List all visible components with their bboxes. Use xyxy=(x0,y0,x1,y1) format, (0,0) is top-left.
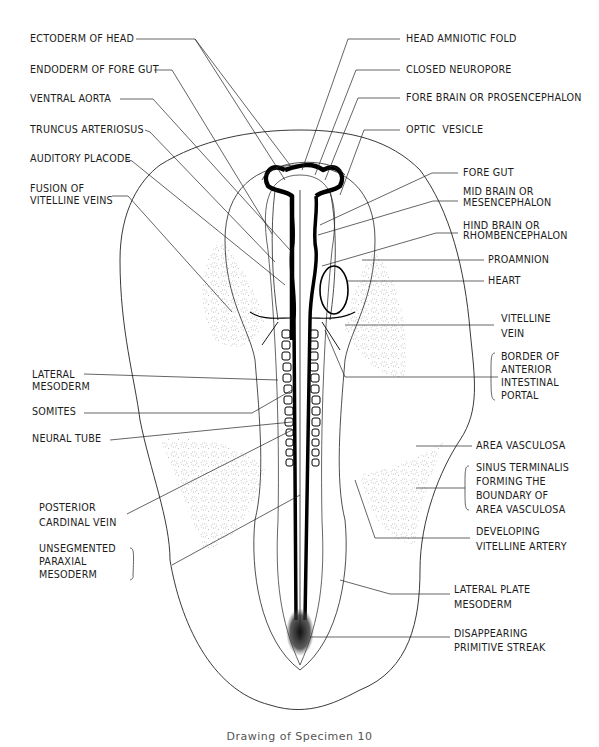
label-hind-brain: HIND BRAIN OR RHOMBENCEPHALON xyxy=(463,221,568,241)
label-disappearing-primitive-streak: DISAPPEARING PRIMITIVE STREAK xyxy=(454,627,545,655)
lateral-fold-right xyxy=(330,190,335,320)
label-developing-vitelline-artery: DEVELOPING VITELLINE ARTERY xyxy=(476,524,567,554)
label-mid-brain: MID BRAIN OR MESENCEPHALON xyxy=(463,186,551,208)
area-vasculosa-lower-left xyxy=(160,439,265,550)
primitive-streak xyxy=(286,608,314,656)
area-vasculosa-upper-right xyxy=(345,250,406,377)
label-neural-tube: NEURAL TUBE xyxy=(32,433,101,445)
somites xyxy=(282,330,320,466)
label-proamnion: PROAMNION xyxy=(488,254,549,266)
label-fore-brain: FORE BRAIN OR PROSENCEPHALON xyxy=(406,92,582,104)
label-ectoderm-of-head: ECTODERM OF HEAD xyxy=(30,33,134,45)
label-lateral-plate-mesoderm: LATERAL PLATE MESODERM xyxy=(454,582,530,612)
label-auditory-placode: AUDITORY PLACODE xyxy=(30,153,131,165)
label-endoderm-of-fore-gut: ENDODERM OF FORE GUT xyxy=(30,64,159,76)
label-ventral-aorta: VENTRAL AORTA xyxy=(30,93,111,105)
label-posterior-cardinal-vein: POSTERIOR CARDINAL VEIN xyxy=(39,500,117,530)
lateral-fold-left xyxy=(272,190,278,320)
neural-tube-right xyxy=(305,196,316,620)
embryo-diagram: ECTODERM OF HEAD ENDODERM OF FORE GUT VE… xyxy=(0,0,599,747)
label-sinus-terminalis: SINUS TERMINALIS FORMING THE BOUNDARY OF… xyxy=(476,461,569,517)
label-closed-neuropore: CLOSED NEUROPORE xyxy=(406,64,512,76)
label-border-anterior-intestinal-portal: BORDER OF ANTERIOR INTESTINAL PORTAL xyxy=(501,350,560,402)
label-area-vasculosa: AREA VASCULOSA xyxy=(476,440,565,452)
label-heart: HEART xyxy=(488,275,521,287)
label-vitelline-vein: VITELLINE VEIN xyxy=(501,311,551,341)
figure-caption: Drawing of Specimen 10 xyxy=(0,730,599,743)
area-vasculosa-upper-left xyxy=(202,240,265,347)
label-fore-gut: FORE GUT xyxy=(463,167,514,179)
label-somites: SOMITES xyxy=(32,406,76,418)
heart-shape xyxy=(320,266,348,314)
label-unsegmented-paraxial-mesoderm: UNSEGMENTED PARAXIAL MESODERM xyxy=(39,542,116,581)
label-lateral-mesoderm: LATERAL MESODERM xyxy=(32,369,90,393)
area-vasculosa-lower-right xyxy=(360,440,445,545)
label-optic-vesicle: OPTIC VESICLE xyxy=(406,124,483,136)
label-fusion-of-vitelline-veins: FUSION OF VITELLINE VEINS xyxy=(30,183,113,207)
label-head-amniotic-fold: HEAD AMNIOTIC FOLD xyxy=(406,33,517,45)
label-truncus-arteriosus: TRUNCUS ARTERIOSUS xyxy=(30,124,144,136)
